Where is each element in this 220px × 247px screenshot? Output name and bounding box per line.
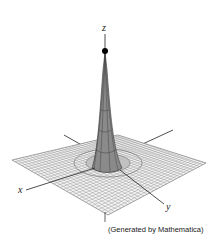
surface-plot [0,0,220,247]
x-axis-label: x [18,184,22,195]
z-axis-label: z [102,22,106,33]
peak-dot [102,48,108,54]
y-axis-label: y [166,201,170,212]
caption: (Generated by Mathematica) [108,225,203,234]
